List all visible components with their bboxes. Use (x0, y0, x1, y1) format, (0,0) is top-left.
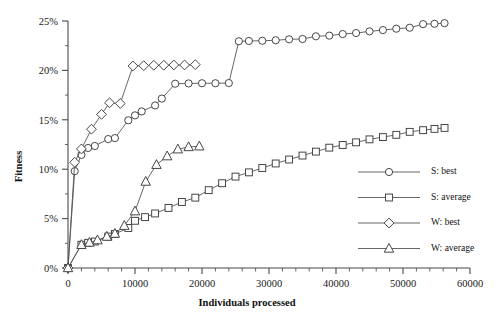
series-group (63, 20, 448, 273)
marker-diamond (190, 60, 200, 70)
marker-diamond (139, 61, 149, 71)
marker-circle (299, 35, 306, 42)
marker-square (393, 131, 400, 138)
x-tick-label: 0 (65, 278, 70, 289)
y-axis-title: Fitness (13, 151, 24, 183)
marker-triangle (162, 151, 171, 160)
marker-square (165, 204, 172, 211)
marker-triangle (184, 142, 193, 151)
marker-circle (379, 26, 386, 33)
marker-square (259, 165, 266, 172)
axes-group: 0%5%10%15%20%25%010000200003000040000500… (39, 16, 483, 289)
x-tick-label: 20000 (189, 278, 215, 289)
x-tick-label: 50000 (390, 278, 416, 289)
y-tick-label: 25% (39, 16, 59, 27)
series-triangle (63, 141, 204, 271)
marker-circle (431, 20, 438, 27)
marker-square (219, 180, 226, 187)
marker-circle (131, 112, 138, 119)
legend-label: W: average (431, 243, 474, 253)
marker-diamond (77, 144, 87, 154)
series-circle (64, 20, 448, 272)
marker-square (379, 134, 386, 141)
y-tick-label: 0% (44, 263, 58, 274)
marker-square (339, 142, 346, 149)
marker-circle (158, 95, 165, 102)
marker-square (299, 152, 306, 159)
marker-triangle (130, 206, 139, 215)
x-tick-label: 40000 (323, 278, 349, 289)
x-tick-label: 10000 (122, 278, 148, 289)
marker-diamond (384, 218, 394, 228)
marker-circle (406, 24, 413, 31)
y-tick-label: 10% (39, 164, 59, 175)
marker-square (205, 187, 212, 194)
marker-circle (272, 37, 279, 44)
marker-circle (198, 80, 205, 87)
marker-diamond (115, 99, 125, 109)
marker-circle (326, 32, 333, 39)
marker-circle (245, 37, 252, 44)
marker-square (326, 144, 333, 151)
marker-triangle (141, 176, 150, 185)
marker-circle (339, 30, 346, 37)
legend-item-circle[interactable]: S: best (358, 166, 457, 176)
marker-circle (235, 38, 242, 45)
marker-circle (152, 102, 159, 109)
marker-square (386, 194, 393, 201)
marker-circle (172, 80, 179, 87)
y-tick-label: 15% (39, 115, 59, 126)
marker-circle (125, 117, 132, 124)
series-line-triangle (68, 146, 199, 268)
marker-square (142, 214, 149, 221)
marker-circle (105, 135, 112, 142)
x-tick-label: 60000 (457, 278, 483, 289)
legend-label: W: best (431, 217, 460, 227)
x-tick-label: 30000 (256, 278, 282, 289)
marker-circle (91, 142, 98, 149)
legend-group: S: bestS: averageW: bestW: average (358, 166, 474, 253)
legend-label: S: average (431, 192, 471, 202)
marker-square (431, 125, 438, 132)
marker-square (353, 139, 360, 146)
chart-canvas: 0%5%10%15%20%25%010000200003000040000500… (0, 0, 500, 322)
marker-diamond (128, 61, 138, 71)
series-line-diamond (68, 65, 195, 268)
marker-square (132, 217, 139, 224)
marker-circle (312, 33, 319, 40)
marker-circle (212, 80, 219, 87)
marker-diamond (159, 60, 169, 70)
marker-diamond (87, 124, 97, 134)
marker-circle (366, 28, 373, 35)
marker-square (406, 128, 413, 135)
legend-item-square[interactable]: S: average (358, 192, 471, 202)
marker-triangle (195, 141, 204, 150)
marker-circle (441, 20, 448, 27)
x-axis-title: Individuals processed (199, 297, 296, 308)
marker-diamond (70, 157, 80, 167)
marker-diamond (169, 60, 179, 70)
marker-square (272, 160, 279, 167)
marker-circle (259, 37, 266, 44)
marker-square (366, 136, 373, 143)
marker-circle (286, 36, 293, 43)
marker-square (420, 127, 427, 134)
y-tick-label: 20% (39, 65, 59, 76)
marker-diamond (180, 60, 190, 70)
marker-diamond (149, 60, 159, 70)
marker-square (312, 148, 319, 155)
legend-item-triangle[interactable]: W: average (358, 243, 474, 253)
marker-circle (420, 21, 427, 28)
marker-circle (111, 134, 118, 141)
marker-square (178, 199, 185, 206)
marker-circle (393, 25, 400, 32)
marker-circle (138, 108, 145, 115)
fitness-chart: 0%5%10%15%20%25%010000200003000040000500… (0, 0, 500, 322)
legend-item-diamond[interactable]: W: best (358, 217, 460, 228)
marker-triangle (152, 160, 161, 169)
marker-square (286, 156, 293, 163)
marker-diamond (97, 109, 107, 119)
marker-diamond (105, 98, 115, 108)
marker-square (232, 173, 239, 180)
marker-square (441, 124, 448, 131)
